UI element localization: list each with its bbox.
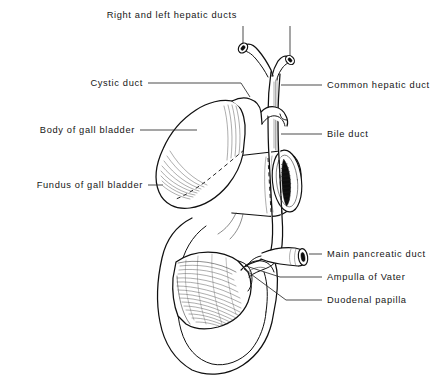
label-main-pancreatic-duct: Main pancreatic duct xyxy=(327,249,426,259)
label-duodenal-papilla: Duodenal papilla xyxy=(327,295,407,305)
label-ampulla-of-vater: Ampulla of Vater xyxy=(327,272,405,282)
label-bile-duct: Bile duct xyxy=(327,129,369,139)
label-fundus-of-gall-bladder: Fundus of gall bladder xyxy=(37,180,143,190)
label-cystic-duct: Cystic duct xyxy=(90,78,143,88)
anatomical-figure: Right and left hepatic ducts Cystic duct… xyxy=(0,0,445,377)
biliary-anatomy-diagram: Right and left hepatic ducts Cystic duct… xyxy=(0,0,445,377)
label-common-hepatic-duct: Common hepatic duct xyxy=(327,80,430,90)
label-right-and-left-hepatic-ducts: Right and left hepatic ducts xyxy=(107,10,237,20)
label-body-of-gall-bladder: Body of gall bladder xyxy=(40,125,135,135)
